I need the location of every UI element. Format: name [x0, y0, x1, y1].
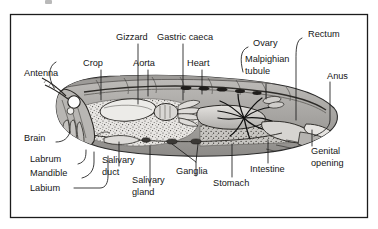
- gizzard-organ: [154, 104, 178, 121]
- anatomy-figure: Antenna Crop Gizzard Aorta Gastric caeca…: [0, 0, 378, 229]
- cropped-caption-artifact: [45, 0, 52, 4]
- label-salivary-duct-line1: Salivary: [102, 155, 135, 165]
- label-aorta: Aorta: [133, 58, 156, 68]
- label-genital-line1: Genital: [311, 146, 340, 156]
- label-rectum: Rectum: [308, 29, 340, 39]
- label-salivary-gland-line2: gland: [132, 187, 154, 197]
- label-mandible: Mandible: [30, 168, 67, 178]
- label-ovary: Ovary: [253, 38, 278, 48]
- label-salivary-gland-line1: Salivary: [132, 175, 165, 185]
- label-labrum: Labrum: [30, 154, 61, 164]
- label-malpighian-line2: tubule: [245, 66, 270, 76]
- label-heart: Heart: [187, 58, 210, 68]
- subesophageal-ganglion: [67, 108, 74, 115]
- brain-organ: [68, 96, 80, 108]
- label-labium: Labium: [30, 183, 60, 193]
- anatomy-diagram-canvas: Antenna Crop Gizzard Aorta Gastric caeca…: [0, 0, 378, 229]
- label-gizzard: Gizzard: [116, 32, 148, 42]
- label-ganglia: Ganglia: [176, 166, 209, 176]
- label-intestine: Intestine: [250, 164, 285, 174]
- label-anus: Anus: [327, 71, 348, 81]
- label-salivary-duct-line2: duct: [102, 167, 120, 177]
- label-genital-line2: opening: [311, 158, 344, 168]
- label-gastric-caeca: Gastric caeca: [157, 32, 214, 42]
- label-antenna: Antenna: [24, 68, 59, 78]
- label-stomach: Stomach: [213, 178, 249, 188]
- label-brain: Brain: [24, 133, 45, 143]
- label-crop: Crop: [83, 58, 103, 68]
- label-malpighian-line1: Malpighian: [245, 54, 289, 64]
